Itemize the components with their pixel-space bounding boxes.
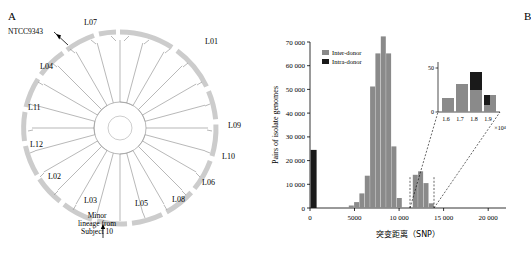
x-tick-label-3: 15 000	[434, 214, 454, 222]
legend-swatch-inter-donor	[322, 50, 329, 55]
tree-branches	[28, 36, 212, 221]
y-tick-label-3: 30 000	[286, 133, 306, 141]
x-tick-label-0: 0	[308, 214, 312, 222]
tree-svg	[0, 0, 262, 255]
tree-tip-label-l12: L12	[30, 140, 43, 149]
tree-tip-label-l09: L09	[228, 121, 241, 130]
tree-tip-label-l01: L01	[205, 37, 218, 46]
tree-tip-label-l11: L11	[28, 103, 41, 112]
histogram-svg: 0 10 000 20 000 30 000 40 000 50 000 60 …	[262, 0, 528, 255]
y-tick-label-4: 40 000	[286, 110, 306, 118]
inset-x-axis-title: ×10⁴	[494, 125, 505, 131]
x-tick-label-2: 10 000	[389, 214, 409, 222]
tree-tip-label-l06: L06	[202, 178, 215, 187]
x-axis-ticks	[310, 208, 488, 211]
inset-y-tick-0: 0	[431, 109, 434, 115]
annotation-minor-lineage: Minor lineage from Subject 10	[78, 212, 116, 236]
tree-tip-label-l08: L08	[172, 195, 185, 204]
y-tick-label-6: 60 000	[286, 62, 306, 70]
x-tick-label-1: 5000	[348, 214, 363, 222]
inset-bar-inter-0	[442, 98, 454, 112]
tree-tip-label-l05: L05	[135, 199, 148, 208]
inset-y-tick-1: 50	[428, 65, 434, 71]
panel-a-phylogenetic-tree: A	[0, 0, 262, 255]
chart-legend: Inter-donor Intra-donor	[322, 49, 362, 65]
y-axis-ticks	[307, 42, 310, 208]
tree-tip-label-l07: L07	[84, 18, 97, 27]
x-axis-title: 突变距离（SNP）	[376, 229, 440, 239]
tree-tip-label-l10: L10	[222, 152, 235, 161]
legend-swatch-intra-donor	[322, 59, 329, 64]
tree-tip-label-l03: L03	[84, 196, 97, 205]
legend-label-intra-donor: Intra-donor	[332, 58, 362, 65]
y-tick-label-5: 50 000	[286, 86, 306, 94]
inset-bar-intra-2	[470, 72, 482, 90]
tree-tip-label-l02: L02	[48, 172, 61, 181]
inset-x-tick-0: 1.6	[442, 116, 450, 122]
annotation-nctc9343: NTCC9343	[8, 28, 43, 36]
panel-b-histogram: B 0 10 000 20 000 30 000 40 000 50 000 6…	[262, 0, 528, 255]
inset-bar-intra-3	[484, 95, 490, 105]
x-tick-label-4: 20 000	[479, 214, 499, 222]
bars-intra-donor	[311, 150, 317, 208]
legend-label-inter-donor: Inter-donor	[332, 49, 362, 56]
inset-bar-inter-1	[456, 84, 468, 112]
inset-x-tick-3: 1.9	[484, 116, 492, 122]
annotation-minor-lineage-line3: Subject 10	[78, 228, 116, 236]
chart-axes	[310, 42, 506, 208]
y-axis-title: Pairs of isolate genomes	[271, 86, 280, 164]
x-axis-tick-labels: 0 5000 10 000 15 000 20 000	[308, 214, 498, 222]
y-tick-label-2: 20 000	[286, 157, 306, 165]
y-tick-label-1: 10 000	[286, 181, 306, 189]
y-tick-label-0: 0	[302, 205, 306, 213]
inset-x-tick-2: 1.8	[470, 116, 478, 122]
y-axis-tick-labels: 0 10 000 20 000 30 000 40 000 50 000 60 …	[286, 39, 306, 213]
nctc-arrow	[56, 34, 61, 40]
tree-inner-nodes	[94, 102, 145, 154]
inset-x-tick-1: 1.7	[456, 116, 464, 122]
tree-tip-label-l04: L04	[40, 62, 53, 71]
nctc-pointer-line	[54, 32, 68, 45]
y-tick-label-7: 70 000	[286, 39, 306, 47]
